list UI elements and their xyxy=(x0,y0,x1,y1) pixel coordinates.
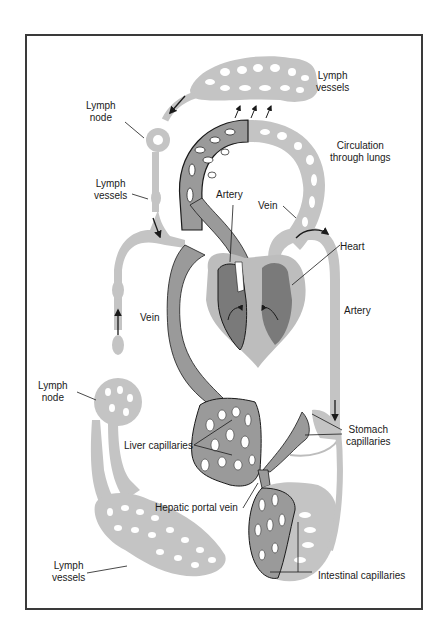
label-hepatic-portal-vein: Hepatic portal vein xyxy=(155,502,238,514)
label-lymph-vessels-bottom: Lymph vessels xyxy=(52,560,85,584)
label-lymph-vessels-mid: Lymph vessels xyxy=(94,178,127,202)
label-stomach-capillaries: Stomach capillaries xyxy=(346,424,390,448)
label-heart: Heart xyxy=(340,241,364,253)
label-liver-capillaries: Liver capillaries xyxy=(124,440,193,452)
stomach-capillaries xyxy=(263,410,338,472)
hepatic-portal-vein xyxy=(258,470,270,488)
label-artery-top: Artery xyxy=(216,189,243,201)
liver-capillaries xyxy=(192,398,262,486)
heart xyxy=(206,245,340,368)
label-lymph-node-bottom: Lymph node xyxy=(38,380,68,404)
intestinal-capillaries xyxy=(249,430,340,581)
label-circulation-through-lungs: Circulation through lungs xyxy=(330,140,391,164)
label-intestinal-capillaries: Intestinal capillaries xyxy=(318,570,405,582)
lymph-vessels-top-network xyxy=(165,56,318,120)
label-vein-top: Vein xyxy=(258,200,277,212)
label-artery-right: Artery xyxy=(344,305,371,317)
label-vein-left: Vein xyxy=(140,312,159,324)
upward-flow-arrows xyxy=(235,106,271,118)
label-lymph-node-top: Lymph node xyxy=(86,100,116,124)
circulation-diagram xyxy=(0,0,442,638)
label-lymph-vessels-top: Lymph vessels xyxy=(316,70,349,94)
